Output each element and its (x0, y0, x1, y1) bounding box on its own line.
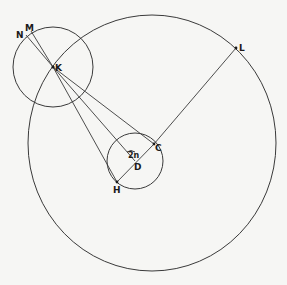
label-h: H (113, 185, 121, 195)
segment-c-l (154, 48, 236, 144)
geometry-diagram: N M K L C D H 2n (0, 0, 287, 285)
segment-k-h (53, 67, 117, 182)
point-l (235, 47, 238, 50)
segment-k-c (53, 67, 154, 144)
segment-k-n (26, 35, 53, 67)
label-m: M (25, 23, 34, 33)
label-k: K (55, 63, 63, 73)
label-d: D (134, 162, 141, 172)
point-h (116, 181, 119, 184)
label-n: N (16, 30, 24, 40)
label-l: L (239, 43, 245, 53)
segment-k-d (53, 67, 135, 161)
segment-k-m (31, 31, 53, 67)
label-angle: 2n (128, 151, 140, 160)
label-c: C (155, 143, 162, 153)
